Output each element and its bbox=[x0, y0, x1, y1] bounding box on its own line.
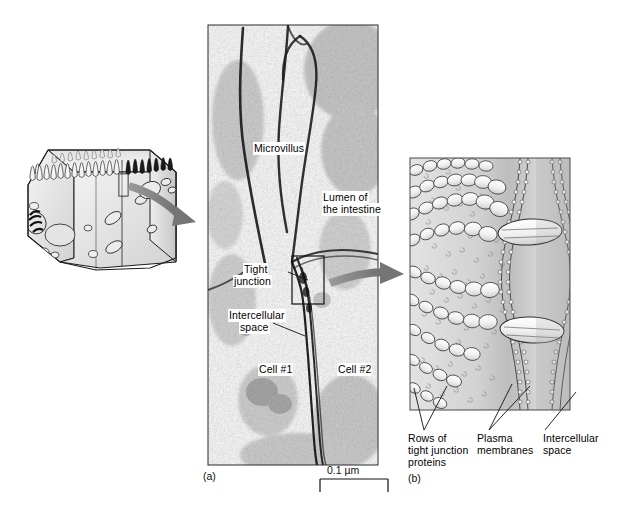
label-rows-line3: proteins bbox=[408, 456, 446, 469]
panel-b-illustration bbox=[403, 157, 582, 411]
cell-block-diagram bbox=[23, 148, 177, 270]
label-tight-junction-line2: junction bbox=[233, 275, 272, 288]
label-cell-2: Cell #2 bbox=[337, 363, 372, 376]
scale-bar-label: 0.1 µm bbox=[327, 464, 359, 476]
label-tight-junction-line1: Tight bbox=[243, 263, 268, 276]
figure-root: Microvillus Lumen of the intestine Tight… bbox=[0, 0, 625, 508]
label-b-intercellular-line1: Intercellular bbox=[543, 432, 599, 445]
label-plasma-line2: membranes bbox=[477, 444, 533, 457]
label-plasma-line1: Plasma bbox=[477, 432, 513, 445]
panel-a-tag: (a) bbox=[203, 470, 216, 482]
label-lumen-line2: the intestine bbox=[322, 203, 382, 216]
panel-a-micrograph bbox=[207, 20, 396, 477]
scale-bar bbox=[320, 479, 388, 492]
label-intercellular-space-line2: space bbox=[239, 321, 270, 334]
label-b-intercellular-line2: space bbox=[543, 444, 572, 457]
panel-b-tag: (b) bbox=[408, 472, 421, 484]
label-lumen-line1: Lumen of bbox=[322, 191, 369, 204]
label-rows-line2: tight junction bbox=[408, 444, 468, 457]
figure-canvas bbox=[0, 0, 625, 508]
label-intercellular-space-line1: Intercellular bbox=[228, 309, 286, 322]
label-microvillus: Microvillus bbox=[253, 142, 305, 155]
label-cell-1: Cell #1 bbox=[258, 363, 293, 376]
label-rows-line1: Rows of bbox=[408, 432, 447, 445]
